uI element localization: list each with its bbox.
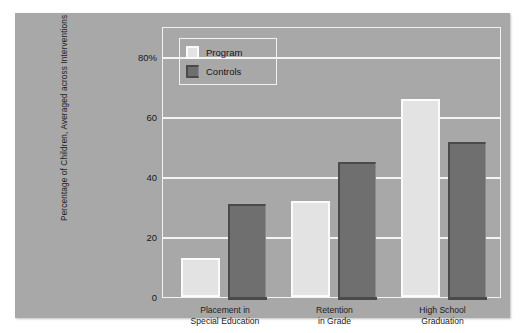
legend-label-controls: Controls <box>206 66 241 77</box>
x-axis-label-retention-line2: in Grade <box>282 316 387 327</box>
ytick-label-80: 80% <box>138 52 157 63</box>
ytick-label-0: 0 <box>152 292 157 303</box>
x-axis-label-placement: Placement in Special Education <box>170 305 280 327</box>
gridline-60: 60 <box>163 117 500 119</box>
legend-swatch-controls-icon <box>186 65 199 78</box>
bar-controls-retention <box>338 162 376 297</box>
y-axis-title: Percentage of Children, Averaged across … <box>59 51 69 221</box>
x-axis-label-retention: Retention in Grade <box>282 305 387 327</box>
chart-legend: Program Controls <box>179 38 277 85</box>
bar-controls-graduation <box>448 142 486 297</box>
x-axis-label-graduation: High School Graduation <box>390 305 495 327</box>
legend-item-program: Program <box>186 43 270 62</box>
chart-figure: Percentage of Children, Averaged across … <box>15 13 510 318</box>
bar-program-retention <box>291 201 330 297</box>
x-axis-label-graduation-line1: High School <box>390 305 495 316</box>
plot-area: 80% 60 40 20 0 <box>162 27 501 298</box>
legend-item-controls: Controls <box>186 62 270 81</box>
bar-program-placement <box>181 258 220 297</box>
x-axis-label-placement-line1: Placement in <box>170 305 280 316</box>
ytick-label-40: 40 <box>146 172 157 183</box>
ytick-label-20: 20 <box>146 232 157 243</box>
x-axis-label-graduation-line2: Graduation <box>390 316 495 327</box>
x-axis-label-retention-line1: Retention <box>282 305 387 316</box>
bar-program-graduation <box>401 99 440 297</box>
x-axis-label-placement-line2: Special Education <box>170 316 280 327</box>
legend-swatch-program-icon <box>186 46 199 59</box>
ytick-label-60: 60 <box>146 112 157 123</box>
legend-label-program: Program <box>206 47 242 58</box>
bar-controls-placement <box>228 204 266 297</box>
